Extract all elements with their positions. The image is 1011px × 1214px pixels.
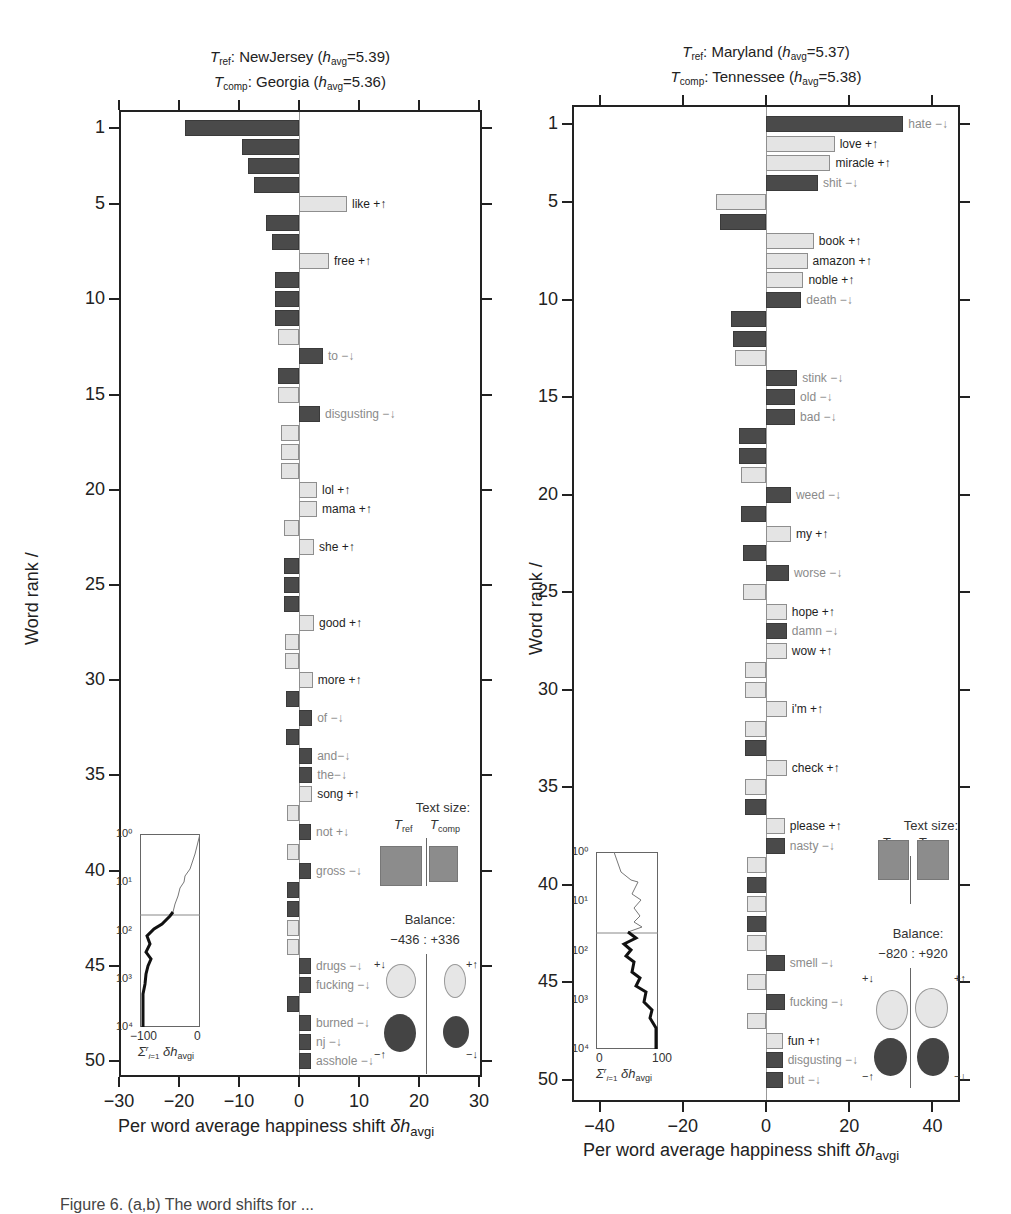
x-tick-label: 0	[269, 1091, 329, 1112]
legend-divider	[426, 838, 427, 886]
inset-y-tick-label: 10²	[116, 924, 132, 936]
y-tick-left	[109, 965, 119, 967]
word-label: of −↓	[317, 710, 343, 726]
inset-x-tick-label: −100	[130, 1029, 157, 1043]
word-bar	[716, 194, 766, 210]
balance-plus-up: +↑	[954, 972, 966, 984]
legend-divider	[910, 856, 911, 904]
word-bar	[766, 272, 803, 288]
y-tick-left	[109, 298, 119, 300]
word-bar	[287, 920, 299, 936]
word-label: damn −↓	[792, 623, 838, 639]
word-label: hate −↓	[908, 116, 948, 132]
word-bar	[766, 370, 797, 386]
word-bar	[299, 710, 312, 726]
x-tick-top	[358, 100, 360, 110]
word-bar	[766, 604, 787, 620]
word-label: nj −↓	[316, 1034, 342, 1050]
word-label: hope +↑	[792, 604, 835, 620]
x-tick-label: −30	[89, 1091, 149, 1112]
word-bar	[299, 863, 311, 879]
word-bar	[281, 463, 299, 479]
word-bar	[299, 196, 347, 212]
word-bar	[766, 116, 903, 132]
inset-y-tick-label: 10³	[116, 972, 132, 984]
word-label: and−↓	[317, 748, 350, 764]
balance-plus-down: +↓	[374, 958, 386, 970]
x-tick-bottom	[358, 1077, 360, 1087]
word-label: worse −↓	[794, 565, 842, 581]
word-bar	[278, 387, 299, 403]
word-bar	[766, 292, 801, 308]
y-tick-label: 50	[59, 1050, 105, 1071]
word-bar	[766, 1072, 783, 1088]
word-label: noble +↑	[808, 272, 854, 288]
y-tick-left	[109, 679, 119, 681]
x-tick-label: 10	[329, 1091, 389, 1112]
inset-y-tick-label: 10⁰	[116, 827, 132, 840]
word-bar	[766, 838, 785, 854]
x-tick-top	[765, 95, 767, 105]
legend-text-size-title: Text size:	[380, 800, 470, 815]
word-bar	[299, 824, 311, 840]
y-tick-left	[562, 201, 572, 203]
x-tick-bottom	[478, 1077, 480, 1087]
y-tick-label: 15	[59, 384, 105, 405]
x-tick-label: −20	[653, 1116, 713, 1137]
x-tick-bottom	[848, 1102, 850, 1112]
word-bar	[731, 311, 766, 327]
y-tick-left	[562, 396, 572, 398]
word-bar	[285, 634, 299, 650]
x-tick-label: 20	[819, 1116, 879, 1137]
word-label: miracle +↑	[835, 155, 890, 171]
word-bar	[299, 1034, 311, 1050]
x-tick-bottom	[298, 1077, 300, 1087]
word-bar	[733, 331, 766, 347]
word-bar	[766, 136, 835, 152]
word-bar	[743, 584, 766, 600]
y-tick-left	[109, 394, 119, 396]
y-tick-right	[482, 965, 492, 967]
y-tick-right	[482, 1060, 492, 1062]
word-label: amazon +↑	[813, 253, 872, 269]
y-tick-right	[482, 127, 492, 129]
inset-x-tick-label: 0	[596, 1051, 603, 1065]
left-ref-havg: 5.39	[356, 48, 385, 65]
x-tick-bottom	[118, 1077, 120, 1087]
word-bar	[275, 291, 299, 307]
y-tick-label: 35	[59, 764, 105, 785]
y-tick-label: 1	[59, 117, 105, 138]
word-bar	[766, 155, 830, 171]
word-label: death −↓	[806, 292, 852, 308]
word-bar	[747, 935, 766, 951]
y-tick-right	[960, 123, 970, 125]
cumulative-inset	[596, 852, 658, 1049]
left-x-axis-title: Per word average happiness shift δhavgi	[118, 1116, 434, 1139]
word-label: old −↓	[800, 389, 832, 405]
y-tick-left	[562, 123, 572, 125]
word-bar	[741, 467, 766, 483]
word-bar	[766, 487, 791, 503]
x-tick-top	[931, 95, 933, 105]
word-bar	[299, 1015, 311, 1031]
word-bar	[766, 253, 808, 269]
word-bar	[739, 428, 766, 444]
y-tick-label: 30	[59, 669, 105, 690]
y-tick-left	[562, 689, 572, 691]
word-bar	[299, 406, 320, 422]
y-tick-left	[109, 584, 119, 586]
word-bar	[747, 896, 766, 912]
word-label: lol +↑	[322, 482, 350, 498]
right-comp-havg: 5.38	[827, 68, 856, 85]
left-comp-havg: 5.36	[352, 73, 381, 90]
word-bar	[266, 215, 299, 231]
word-bar	[299, 253, 329, 269]
left-chart-title: Tref: NewJersey (havg=5.39) Tcomp: Georg…	[120, 47, 480, 97]
word-bar	[278, 329, 299, 345]
y-tick-label: 25	[512, 581, 558, 602]
y-tick-label: 5	[512, 191, 558, 212]
x-tick-bottom	[599, 1102, 601, 1112]
word-bar	[747, 974, 766, 990]
word-bar	[287, 805, 299, 821]
y-tick-right	[960, 884, 970, 886]
